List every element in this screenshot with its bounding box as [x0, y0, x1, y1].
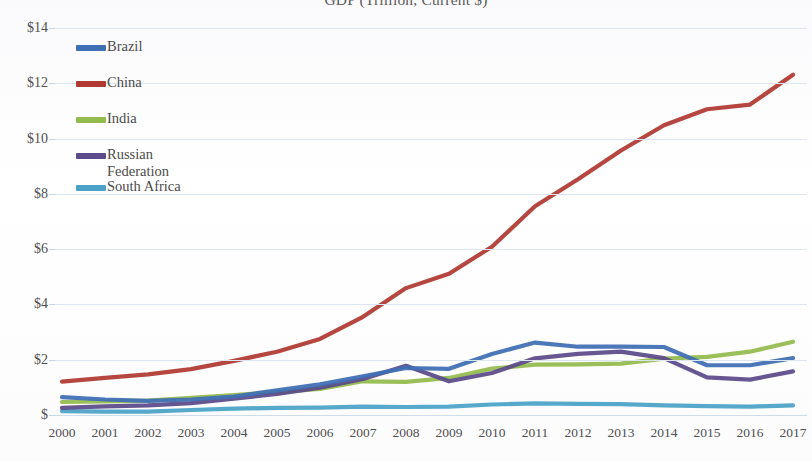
legend-swatch-icon — [76, 45, 106, 51]
x-axis-label-2008: 2008 — [393, 425, 420, 441]
series-lines — [55, 28, 807, 415]
legend-item-label: Russian Federation — [107, 146, 169, 180]
legend-item-india[interactable]: India — [76, 110, 137, 127]
y-axis: $$2$4$6$8$10$12$14 — [0, 28, 48, 415]
y-axis-tick-10 — [49, 139, 55, 140]
x-axis-label-2013: 2013 — [608, 425, 635, 441]
y-axis-label-0: $ — [4, 407, 48, 423]
legend-swatch-icon — [76, 185, 106, 191]
gridline-2 — [55, 360, 807, 361]
y-axis-tick-14 — [49, 28, 55, 29]
gridline-12 — [55, 83, 807, 84]
series-line-china — [62, 75, 793, 382]
legend-item-label: India — [107, 110, 137, 127]
y-axis-label-12: $12 — [4, 75, 48, 91]
x-axis-label-2017: 2017 — [780, 425, 807, 441]
x-axis-label-2001: 2001 — [92, 425, 119, 441]
legend-item-label: Brazil — [107, 38, 142, 55]
y-axis-tick-4 — [49, 304, 55, 305]
x-axis-label-2003: 2003 — [178, 425, 205, 441]
legend-swatch-icon — [76, 117, 106, 123]
gridline-10 — [55, 139, 807, 140]
gridline-4 — [55, 304, 807, 305]
legend-item-russian-federation[interactable]: Russian Federation — [76, 146, 169, 180]
x-axis-label-2010: 2010 — [479, 425, 506, 441]
legend-swatch-icon — [76, 153, 106, 159]
x-axis-label-2014: 2014 — [651, 425, 678, 441]
legend-swatch-icon — [76, 81, 106, 87]
x-axis-label-2016: 2016 — [737, 425, 764, 441]
y-axis-tick-12 — [49, 83, 55, 84]
x-axis-label-2012: 2012 — [565, 425, 592, 441]
plot-area — [55, 28, 807, 415]
y-axis-tick-6 — [49, 249, 55, 250]
y-axis-label-14: $14 — [4, 20, 48, 36]
legend-item-label: China — [107, 74, 142, 91]
legend-item-china[interactable]: China — [76, 74, 142, 91]
legend-item-south-africa[interactable]: South Africa — [76, 178, 181, 195]
y-axis-tick-8 — [49, 194, 55, 195]
y-axis-label-10: $10 — [4, 131, 48, 147]
gdp-line-chart: GDP (Trillion, Current $) $$2$4$6$8$10$1… — [0, 0, 812, 461]
y-axis-label-8: $8 — [4, 186, 48, 202]
x-axis-label-2015: 2015 — [694, 425, 721, 441]
x-axis-label-2009: 2009 — [436, 425, 463, 441]
y-axis-tick-0 — [49, 415, 55, 416]
x-axis-label-2006: 2006 — [307, 425, 334, 441]
x-axis-label-2000: 2000 — [49, 425, 76, 441]
y-axis-label-2: $2 — [4, 352, 48, 368]
legend-item-label: South Africa — [107, 178, 181, 195]
x-axis-label-2004: 2004 — [221, 425, 248, 441]
x-axis-label-2005: 2005 — [264, 425, 291, 441]
legend-item-brazil[interactable]: Brazil — [76, 38, 142, 55]
gridline-0 — [55, 415, 807, 416]
y-axis-tick-2 — [49, 360, 55, 361]
x-axis-label-2007: 2007 — [350, 425, 377, 441]
y-axis-label-4: $4 — [4, 296, 48, 312]
y-axis-label-6: $6 — [4, 241, 48, 257]
gridline-14 — [55, 28, 807, 29]
x-axis-label-2002: 2002 — [135, 425, 162, 441]
chart-title: GDP (Trillion, Current $) — [0, 0, 812, 9]
x-axis: 2000200120022003200420052006200720082009… — [55, 425, 807, 455]
x-axis-label-2011: 2011 — [522, 425, 549, 441]
gridline-6 — [55, 249, 807, 250]
